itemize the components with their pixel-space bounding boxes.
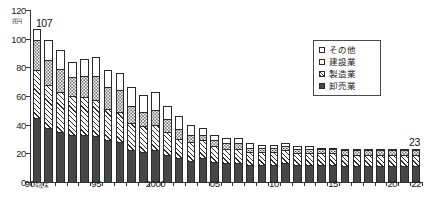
- x-axis-tick-label: 22: [411, 178, 421, 189]
- bar: [80, 59, 89, 182]
- bar-segment-manufacture: [68, 96, 77, 135]
- legend-item-manufacture: 製造業: [319, 68, 376, 80]
- plot-area: [30, 10, 422, 183]
- bar-segment-construction: [187, 135, 196, 142]
- bar: [127, 87, 136, 182]
- bar-segment-wholesale: [116, 142, 125, 182]
- legend-item-wholesale: 卸売業: [319, 80, 376, 92]
- value-annotation-last: 23: [409, 136, 420, 148]
- bar-segment-other: [80, 59, 89, 76]
- bar-segment-manufacture: [187, 142, 196, 161]
- bar: [246, 143, 255, 182]
- legend-item-construction: 建設業: [319, 56, 376, 68]
- bar-segment-construction: [104, 87, 113, 109]
- bar-segment-construction: [56, 69, 65, 92]
- bar-segment-construction: [151, 110, 160, 124]
- bar-segment-manufacture: [400, 155, 409, 166]
- legend-item-label: 製造業: [329, 70, 355, 79]
- bar-segment-manufacture: [317, 153, 326, 164]
- bar-segment-manufacture: [151, 125, 160, 151]
- bar-segment-manufacture: [353, 155, 362, 166]
- bar-segment-wholesale: [80, 135, 89, 182]
- bar: [33, 29, 42, 182]
- legend-item-other: その他: [319, 44, 376, 56]
- bar-segment-construction: [44, 60, 53, 84]
- bar-segment-wholesale: [56, 132, 65, 182]
- x-axis-label-group: 90年度末9520000510152022: [0, 178, 400, 194]
- y-axis-tick-label: 20: [16, 148, 26, 159]
- bar-segment-other: [139, 95, 148, 112]
- bar-segment-manufacture: [80, 97, 89, 134]
- bar-segment-manufacture: [234, 149, 243, 163]
- bar-segment-manufacture: [44, 85, 53, 128]
- bar: [329, 148, 338, 182]
- y-axis-tick: [26, 153, 30, 154]
- bar-segment-other: [151, 92, 160, 111]
- bar-segment-other: [44, 40, 53, 60]
- bar-segment-other: [163, 106, 172, 119]
- bar-segment-wholesale: [104, 140, 113, 182]
- bar-segment-wholesale: [68, 135, 77, 182]
- x-axis-tick-label-text: 90: [25, 178, 35, 189]
- x-axis-tick-label: 05: [210, 178, 220, 189]
- bar-segment-construction: [80, 76, 89, 98]
- bar-segment-construction: [139, 112, 148, 126]
- legend-item-label: その他: [329, 46, 355, 55]
- bar-segment-wholesale: [44, 128, 53, 182]
- bar: [222, 138, 231, 182]
- y-axis-tick: [26, 96, 30, 97]
- bar-segment-manufacture: [270, 152, 279, 165]
- bar-segment-manufacture: [116, 112, 125, 142]
- bar-segment-manufacture: [175, 139, 184, 158]
- bar-segment-manufacture: [199, 140, 208, 157]
- bar-segment-other: [33, 29, 42, 40]
- x-axis-tick-label: 10: [269, 178, 279, 189]
- bar-segment-manufacture: [56, 92, 65, 132]
- y-axis-label-group: 020406080100120: [0, 10, 28, 183]
- bar: [56, 50, 65, 182]
- bar-segment-manufacture: [293, 153, 302, 164]
- y-axis-tick-label: 60: [16, 91, 26, 102]
- bar-segment-manufacture: [127, 123, 136, 150]
- bar: [44, 40, 53, 182]
- y-axis-tick: [26, 67, 30, 68]
- y-axis-tick-label: 120: [11, 5, 26, 16]
- bar: [187, 125, 196, 182]
- bar-segment-construction: [116, 90, 125, 112]
- bar-segment-construction: [33, 40, 42, 70]
- bar: [317, 148, 326, 182]
- bar-segment-manufacture: [222, 149, 231, 163]
- y-axis-tick: [26, 10, 30, 11]
- bar-segment-manufacture: [329, 153, 338, 164]
- legend-item-label: 建設業: [329, 58, 355, 67]
- chart-legend: その他 建設業 製造業 卸売業: [313, 40, 381, 96]
- y-axis-tick-label: 80: [16, 62, 26, 73]
- bar-segment-other: [68, 62, 77, 78]
- bar-segment-manufacture: [246, 152, 255, 165]
- bar-segment-other: [175, 116, 184, 129]
- bar: [116, 73, 125, 182]
- bar-segment-other: [116, 73, 125, 90]
- bar-segment-manufacture: [163, 132, 172, 155]
- x-axis-tick-label: 95: [91, 178, 101, 189]
- bar: [234, 138, 243, 182]
- bar-segment-manufacture: [305, 153, 314, 164]
- bar: [151, 92, 160, 182]
- bar-segment-construction: [127, 106, 136, 123]
- bar-group: [31, 10, 422, 182]
- bar-segment-manufacture: [281, 150, 290, 163]
- bar-segment-wholesale: [33, 118, 42, 183]
- bar-segment-manufacture: [341, 155, 350, 166]
- bar-segment-manufacture: [388, 155, 397, 166]
- bar-segment-construction: [68, 77, 77, 96]
- y-axis-tick-label: 40: [16, 119, 26, 130]
- bar-segment-manufacture: [33, 70, 42, 117]
- bar: [305, 146, 314, 182]
- bar-segment-manufacture: [376, 155, 385, 166]
- x-axis-tick-label: 90年度末: [25, 178, 49, 189]
- bar-segment-construction: [92, 76, 101, 100]
- bar-segment-wholesale: [400, 166, 409, 182]
- bar: [270, 145, 279, 182]
- bar-segment-other: [104, 70, 113, 87]
- y-axis-unit-label: 兆円: [12, 17, 22, 24]
